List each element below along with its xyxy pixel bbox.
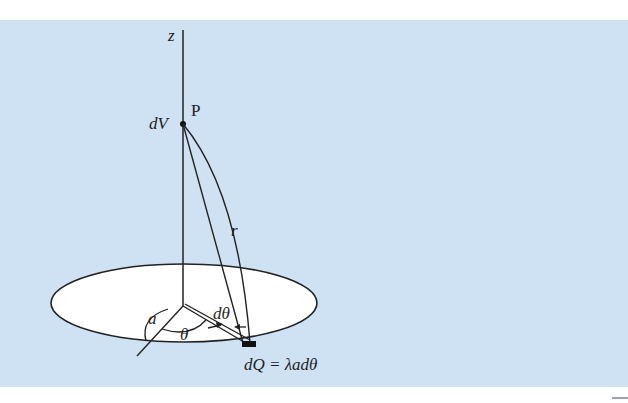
dv-label: dV [149,115,168,132]
r-label: r [231,222,238,239]
theta-label: θ [180,326,188,343]
a-label: a [148,310,157,327]
corner-mark [612,397,628,399]
point-p-label: P [191,102,200,119]
dtheta-label: dθ [213,305,230,322]
z-axis-label: z [168,27,175,44]
ring-charge-diagram [0,0,628,403]
dq-label: dQ = λadθ [244,356,317,373]
charge-element-block [242,341,256,347]
